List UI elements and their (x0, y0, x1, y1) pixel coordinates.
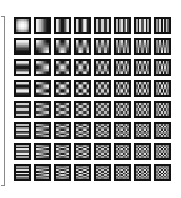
dct-basis-cell (154, 17, 171, 34)
dct-basis-cell (54, 59, 71, 76)
dct-basis-cell (74, 17, 91, 34)
dct-basis-cell (34, 101, 51, 118)
dct-basis-cell (134, 38, 151, 55)
dct-basis-cell (134, 101, 151, 118)
dct-basis-cell (14, 80, 31, 97)
bracket-bottom-tick (1, 185, 5, 186)
dct-basis-cell (14, 38, 31, 55)
dct-basis-cell (74, 59, 91, 76)
dct-basis-cell (74, 101, 91, 118)
dct-basis-cell (14, 143, 31, 160)
dct-basis-cell (154, 122, 171, 139)
dct-basis-cell (114, 143, 131, 160)
dct-basis-cell (54, 38, 71, 55)
dct-basis-cell (94, 143, 111, 160)
dct-basis-cell (14, 59, 31, 76)
dct-basis-cell (114, 17, 131, 34)
dct-basis-cell (14, 101, 31, 118)
dct-basis-cell (54, 101, 71, 118)
dct-basis-cell (114, 164, 131, 181)
dct-basis-cell (94, 101, 111, 118)
dct-basis-cell (54, 17, 71, 34)
dct-basis-cell (94, 17, 111, 34)
dct-basis-cell (154, 80, 171, 97)
dct-basis-cell (74, 80, 91, 97)
dct-basis-cell (34, 122, 51, 139)
dct-basis-cell (114, 101, 131, 118)
dct-basis-cell (14, 122, 31, 139)
dct-basis-cell (134, 17, 151, 34)
dct-basis-cell (34, 38, 51, 55)
dct-basis-cell (154, 101, 171, 118)
dct-basis-cell (14, 17, 31, 34)
dct-basis-cell (54, 143, 71, 160)
dct-basis-cell (154, 38, 171, 55)
dct-basis-cell (94, 122, 111, 139)
dct-basis-cell (34, 164, 51, 181)
dct-basis-cell (154, 59, 171, 76)
dct-basis-cell (134, 80, 151, 97)
dct-basis-cell (134, 164, 151, 181)
dct-basis-cell (74, 164, 91, 181)
dct-basis-cell (134, 122, 151, 139)
dct-basis-cell (134, 59, 151, 76)
dct-basis-cell (34, 143, 51, 160)
dct-basis-cell (74, 38, 91, 55)
dct-basis-cell (154, 143, 171, 160)
dct-basis-cell (94, 38, 111, 55)
dct-basis-cell (34, 59, 51, 76)
dct-basis-cell (114, 38, 131, 55)
dct-basis-cell (114, 122, 131, 139)
dct-basis-cell (34, 80, 51, 97)
dct-basis-cell (54, 80, 71, 97)
dct-basis-cell (94, 164, 111, 181)
dct-basis-cell (74, 122, 91, 139)
dct-basis-cell (14, 164, 31, 181)
dct-basis-cell (134, 143, 151, 160)
dct-basis-cell (74, 143, 91, 160)
dct-basis-cell (114, 80, 131, 97)
dct-basis-cell (34, 17, 51, 34)
bracket-line (4, 16, 5, 186)
dct-basis-cell (114, 59, 131, 76)
dct-basis-cell (94, 59, 111, 76)
dct-basis-cell (54, 164, 71, 181)
dct-basis-cell (54, 122, 71, 139)
dct-basis-cell (94, 80, 111, 97)
dct-basis-cell (154, 164, 171, 181)
dct-basis-grid (14, 17, 176, 187)
